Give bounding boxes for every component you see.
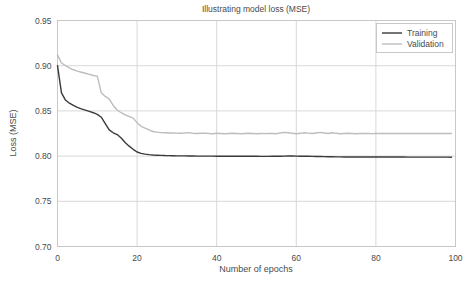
legend-label-validation: Validation (407, 39, 444, 49)
x-tick-label: 40 (212, 253, 222, 263)
chart-page: 0.700.750.800.850.900.95 020406080100 Il… (0, 0, 464, 289)
x-tick-label: 0 (55, 253, 60, 263)
x-tick-label: 80 (371, 253, 381, 263)
y-axis-title: Loss (MSE) (8, 109, 18, 156)
chart-legend: Training Validation (377, 24, 453, 53)
y-tick-label: 0.70 (35, 242, 52, 252)
legend-label-training: Training (407, 28, 438, 38)
y-tick-label: 0.85 (35, 106, 52, 116)
y-tick-label: 0.95 (35, 16, 52, 26)
chart-title: Illustrating model loss (MSE) (202, 4, 310, 14)
x-tick-label: 100 (448, 253, 462, 263)
y-tick-label: 0.90 (35, 61, 52, 71)
y-tick-label: 0.80 (35, 151, 52, 161)
model-loss-line-chart: 0.700.750.800.850.900.95 020406080100 Il… (0, 0, 464, 289)
x-axis-title: Number of epochs (219, 264, 293, 274)
y-tick-label: 0.75 (35, 196, 52, 206)
x-tick-label: 20 (132, 253, 142, 263)
x-tick-label: 60 (292, 253, 302, 263)
